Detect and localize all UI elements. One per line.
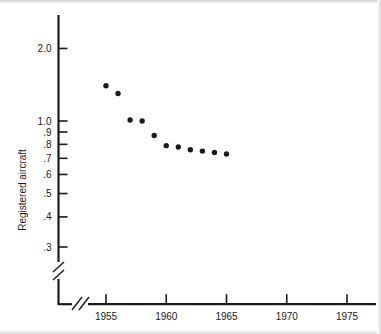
y-tick-label: .8 [43, 139, 52, 150]
data-point-series [103, 83, 229, 157]
x-tick-label: 1970 [276, 311, 299, 322]
y-tick-label: .6 [43, 169, 52, 180]
y-tick-labels: 2.01.0.9.8.7.6.5.4.3 [38, 43, 52, 253]
data-point [188, 147, 193, 152]
y-tick-label: .3 [43, 242, 52, 253]
data-point [224, 151, 229, 156]
y-axis-title: Registered aircraft [17, 149, 28, 231]
x-tick-marks [106, 294, 347, 304]
chart-figure: 2.01.0.9.8.7.6.5.4.3 1955196019651970197… [0, 0, 381, 334]
y-tick-label: .5 [43, 188, 52, 199]
y-tick-label: .7 [43, 153, 52, 164]
data-point [127, 117, 132, 122]
data-point [103, 83, 108, 88]
data-point [176, 144, 181, 149]
y-axis-break-icon [53, 262, 64, 280]
y-tick-label: 2.0 [38, 43, 52, 54]
data-point [115, 91, 120, 96]
data-point [212, 150, 217, 155]
data-point [139, 118, 144, 123]
data-point [152, 133, 157, 138]
y-tick-label: .9 [43, 127, 52, 138]
x-axis-break-icon [72, 297, 89, 310]
x-tick-label: 1965 [215, 311, 238, 322]
y-tick-marks [59, 48, 68, 247]
data-point [200, 148, 205, 153]
x-tick-labels: 19551960196519701975 [95, 311, 359, 322]
x-tick-label: 1960 [155, 311, 178, 322]
data-point [164, 143, 169, 148]
y-tick-label: .4 [43, 211, 52, 222]
x-tick-label: 1955 [95, 311, 118, 322]
y-tick-label: 1.0 [38, 116, 52, 127]
scatter-plot: 2.01.0.9.8.7.6.5.4.3 1955196019651970197… [0, 0, 381, 334]
x-tick-label: 1975 [336, 311, 359, 322]
